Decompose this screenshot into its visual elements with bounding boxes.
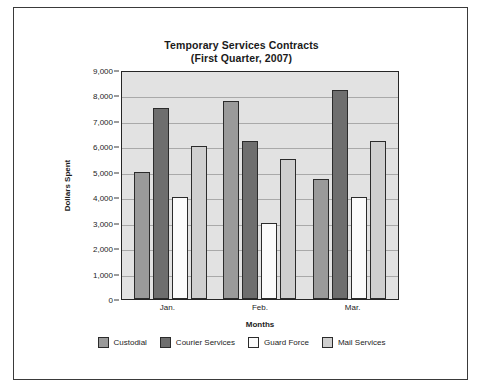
y-axis-tick-label: 7,000	[93, 117, 113, 126]
bar[interactable]	[134, 172, 150, 299]
y-axis-tick-label: 0	[109, 296, 113, 305]
legend-label: Mail Services	[338, 338, 386, 347]
x-axis-tick-label: Feb.	[220, 303, 300, 312]
y-axis-tick-label: 6,000	[93, 143, 113, 152]
y-axis-tick-mark	[114, 96, 119, 97]
chart-subtitle: (First Quarter, 2007)	[14, 52, 469, 65]
bar-group	[223, 72, 296, 299]
x-axis-tick-labels: Jan.Feb.Mar.	[121, 303, 399, 312]
bar[interactable]	[172, 197, 188, 299]
chart-legend: CustodialCourier ServicesGuard ForceMail…	[14, 337, 469, 348]
x-axis-tick-label: Jan.	[127, 303, 207, 312]
y-axis-tick-mark	[114, 249, 119, 250]
bar[interactable]	[242, 141, 258, 299]
legend-swatch	[98, 337, 109, 348]
legend-item[interactable]: Guard Force	[248, 337, 309, 348]
plot-wrapper	[121, 71, 399, 300]
bar[interactable]	[370, 141, 386, 299]
y-axis-tick-mark	[114, 172, 119, 173]
y-axis-tick-label: 4,000	[93, 194, 113, 203]
legend-item[interactable]: Mail Services	[322, 337, 386, 348]
bar[interactable]	[153, 108, 169, 299]
bars-layer	[122, 72, 398, 299]
y-axis-tick-labels: 9,0008,0007,0006,0005,0004,0003,0002,000…	[73, 71, 119, 300]
y-axis-tick-label: 5,000	[93, 168, 113, 177]
y-axis-tick-mark	[114, 198, 119, 199]
bar[interactable]	[332, 90, 348, 299]
bar[interactable]	[223, 101, 239, 299]
bar[interactable]	[191, 146, 207, 299]
y-axis-tick-mark	[114, 121, 119, 122]
legend-label: Courier Services	[176, 338, 235, 347]
y-axis-tick-label: 9,000	[93, 67, 113, 76]
bar[interactable]	[261, 223, 277, 299]
y-axis-tick-mark	[114, 147, 119, 148]
legend-swatch	[248, 337, 259, 348]
legend-label: Guard Force	[264, 338, 309, 347]
y-axis-tick-mark	[114, 274, 119, 275]
y-axis-tick-label: 3,000	[93, 219, 113, 228]
bar-group	[134, 72, 207, 299]
bar[interactable]	[280, 159, 296, 299]
plot-area	[121, 71, 399, 300]
bar-group	[313, 72, 386, 299]
y-axis-tick-label: 2,000	[93, 245, 113, 254]
legend-label: Custodial	[114, 338, 147, 347]
chart-figure-frame: Temporary Services Contracts (First Quar…	[13, 7, 468, 380]
legend-item[interactable]: Custodial	[98, 337, 147, 348]
bar[interactable]	[313, 179, 329, 299]
chart-title: Temporary Services Contracts (First Quar…	[14, 39, 469, 65]
y-axis-tick-label: 8,000	[93, 92, 113, 101]
legend-item[interactable]: Courier Services	[160, 337, 235, 348]
chart-title-main: Temporary Services Contracts	[164, 39, 318, 51]
bar[interactable]	[351, 197, 367, 299]
legend-swatch	[160, 337, 171, 348]
y-axis-tick-label: 1,000	[93, 270, 113, 279]
x-axis-title: Months	[121, 320, 399, 329]
y-axis-tick-mark	[114, 71, 119, 72]
legend-swatch	[322, 337, 333, 348]
y-axis-tick-mark	[114, 300, 119, 301]
x-axis-tick-label: Mar.	[313, 303, 393, 312]
y-axis-tick-mark	[114, 223, 119, 224]
